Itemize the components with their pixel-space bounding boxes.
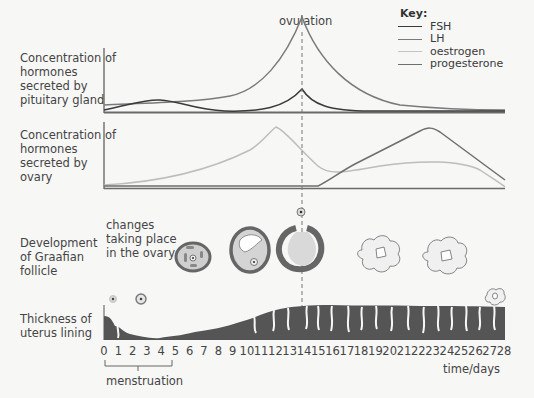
tick-17: 17 xyxy=(340,344,355,358)
pituitary-chart xyxy=(104,17,505,113)
tick-5: 5 xyxy=(172,344,179,358)
tick-25: 25 xyxy=(454,344,469,358)
tick-19: 19 xyxy=(368,344,383,358)
uterus-lining-chart xyxy=(104,305,505,371)
tick-14: 14 xyxy=(297,344,312,358)
tick-18: 18 xyxy=(354,344,369,358)
tick-22: 22 xyxy=(411,344,426,358)
uterus-lining-area xyxy=(104,305,505,340)
tick-12: 12 xyxy=(268,344,283,358)
tick-26: 26 xyxy=(468,344,483,358)
tick-9: 9 xyxy=(229,344,236,358)
ovary-chart xyxy=(104,122,505,189)
tick-4: 4 xyxy=(157,344,164,358)
tick-23: 23 xyxy=(425,344,440,358)
menstruation-bracket xyxy=(105,360,172,371)
cycle-diagram xyxy=(0,0,534,398)
tick-1: 1 xyxy=(115,344,122,358)
tick-7: 7 xyxy=(200,344,207,358)
follicle-stages xyxy=(110,208,506,305)
lh-curve xyxy=(104,17,505,110)
tick-20: 20 xyxy=(382,344,397,358)
tick-27: 27 xyxy=(482,344,497,358)
tick-10: 10 xyxy=(240,344,255,358)
tick-21: 21 xyxy=(397,344,412,358)
tick-13: 13 xyxy=(282,344,297,358)
tick-2: 2 xyxy=(129,344,136,358)
tick-24: 24 xyxy=(440,344,455,358)
tick-16: 16 xyxy=(325,344,340,358)
tick-6: 6 xyxy=(186,344,193,358)
tick-8: 8 xyxy=(215,344,222,358)
tick-28: 28 xyxy=(497,344,512,358)
tick-3: 3 xyxy=(143,344,150,358)
tick-0: 0 xyxy=(100,344,107,358)
tick-11: 11 xyxy=(254,344,269,358)
tick-15: 15 xyxy=(311,344,326,358)
